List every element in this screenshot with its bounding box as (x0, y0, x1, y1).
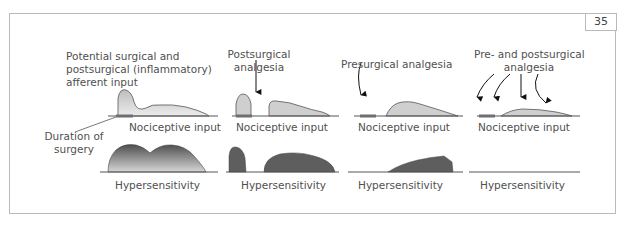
hypersensitivity-curve (108, 145, 206, 172)
nociceptive-curve (118, 90, 209, 116)
panel-2-title-line-1: Postsurgical (224, 48, 294, 60)
nociceptive-curve (501, 109, 572, 116)
panel-2-nociceptive-label: Nociceptive input (236, 121, 328, 133)
surgery-duration-bar (479, 115, 495, 118)
panel-4-title-line-2: analgesia (474, 61, 584, 73)
panel-3-title: Presurgical analgesia (341, 58, 452, 70)
hypersensitivity-curve-b (264, 153, 335, 172)
panel-4-hypersensitivity-label: Hypersensitivity (480, 179, 565, 191)
surgery-callout-line-1: Duration of (44, 130, 104, 142)
surgery-duration-bar (360, 115, 376, 118)
panel-1-title-line-3: afferent input (66, 76, 138, 88)
panel-2-hypersensitivity-label: Hypersensitivity (241, 179, 326, 191)
analgesia-arrow-1 (477, 74, 494, 97)
panel-1-title-line-2: postsurgical (inflammatory) (66, 63, 212, 75)
nociceptive-curve (386, 102, 458, 116)
nociceptive-curve-post (269, 101, 330, 116)
panel-presurgical (348, 63, 463, 172)
panel-2-title-line-2: analgesia (224, 61, 294, 73)
surgery-duration-bar (116, 115, 133, 118)
nociceptive-curve-surgery (236, 94, 251, 116)
panel-1-nociceptive-label: Nociceptive input (129, 121, 221, 133)
surgery-duration-bar (236, 115, 252, 118)
hypersensitivity-curve-a (229, 147, 246, 172)
panel-1-hypersensitivity-label: Hypersensitivity (115, 179, 200, 191)
hypersensitivity-curve (388, 156, 453, 172)
surgery-callout-line-2: surgery (44, 143, 104, 155)
panel-3-nociceptive-label: Nociceptive input (358, 121, 450, 133)
diagram-art (0, 0, 627, 237)
analgesia-arrow-2 (494, 74, 510, 97)
panel-3-hypersensitivity-label: Hypersensitivity (358, 179, 443, 191)
panel-1-title-line-1: Potential surgical and (66, 50, 179, 62)
panel-4-nociceptive-label: Nociceptive input (478, 121, 570, 133)
analgesia-arrow-4 (535, 74, 546, 103)
panel-4-title-line-1: Pre- and postsurgical (474, 48, 584, 60)
panel-postsurgical (226, 60, 339, 172)
